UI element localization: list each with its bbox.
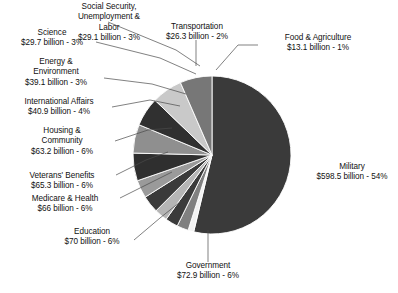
callout-veterans-benefits-value: $65.3 billion - 6% [6, 181, 118, 191]
callout-energy-environment-value: $39.1 billion - 3% [8, 78, 104, 88]
callout-education-value: $70 billion - 6% [46, 237, 138, 247]
callout-housing-community: Housing & Community $63.2 billion - 6% [8, 126, 116, 157]
callout-international-affairs-value: $40.9 billion - 4% [4, 107, 114, 117]
callout-housing-community-line1: Housing & [8, 126, 116, 136]
callout-food-agriculture-value: $13.1 billion - 1% [258, 43, 378, 53]
callout-medicare-health: Medicare & Health $66 billion - 6% [8, 194, 122, 215]
callout-military: Military $598.5 billion - 54% [306, 162, 398, 183]
callout-medicare-health-line1: Medicare & Health [8, 194, 122, 204]
callout-energy-environment-line1: Energy & [8, 57, 104, 67]
callout-government-value: $72.9 billion - 6% [152, 271, 264, 281]
callout-military-value: $598.5 billion - 54% [306, 172, 398, 182]
callout-medicare-health-value: $66 billion - 6% [8, 204, 122, 214]
callout-food-agriculture-line1: Food & Agriculture [258, 33, 378, 43]
callout-transportation: Transportation $26.3 billion - 2% [152, 22, 242, 43]
callout-science-line1: Science [6, 28, 98, 38]
callout-science-value: $29.7 billion - 3% [6, 38, 98, 48]
callout-transportation-line1: Transportation [152, 22, 242, 32]
callout-social-security-line1: Social Security, [54, 2, 164, 12]
callout-international-affairs: International Affairs $40.9 billion - 4% [4, 97, 114, 118]
pie-slices-group [133, 76, 291, 234]
callout-energy-environment: Energy & Environment $39.1 billion - 3% [8, 57, 104, 88]
leader-line-science [96, 42, 196, 74]
callout-housing-community-line2: Community [8, 136, 116, 146]
callout-social-security-line2: Unemployment & [54, 12, 164, 22]
callout-international-affairs-line1: International Affairs [4, 97, 114, 107]
pie-chart-figure: Social Security, Unemployment & Labor $2… [0, 0, 398, 293]
callout-government: Government $72.9 billion - 6% [152, 261, 264, 282]
callout-energy-environment-line2: Environment [8, 67, 104, 77]
callout-education: Education $70 billion - 6% [46, 227, 138, 248]
callout-food-agriculture: Food & Agriculture $13.1 billion - 1% [258, 33, 378, 54]
callout-housing-community-value: $63.2 billion - 6% [8, 147, 116, 157]
callout-government-line1: Government [152, 261, 264, 271]
callout-science: Science $29.7 billion - 3% [6, 28, 98, 49]
leader-line-food-agriculture [216, 45, 258, 70]
callout-veterans-benefits-line1: Veterans' Benefits [6, 171, 118, 181]
callout-education-line1: Education [46, 227, 138, 237]
callout-military-line1: Military [306, 162, 398, 172]
callout-veterans-benefits: Veterans' Benefits $65.3 billion - 6% [6, 171, 118, 192]
callout-transportation-value: $26.3 billion - 2% [152, 32, 242, 42]
